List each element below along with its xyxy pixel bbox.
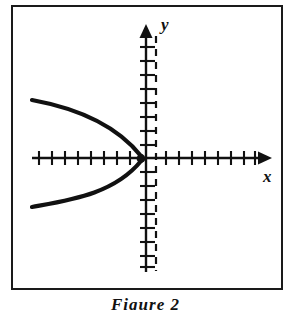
plot-frame-border bbox=[11, 5, 283, 290]
x-axis-label: x bbox=[263, 168, 272, 185]
figure-container: y x Figure 2 bbox=[0, 0, 291, 310]
y-axis-label: y bbox=[161, 16, 169, 33]
figure-caption: Figure 2 bbox=[0, 295, 291, 310]
